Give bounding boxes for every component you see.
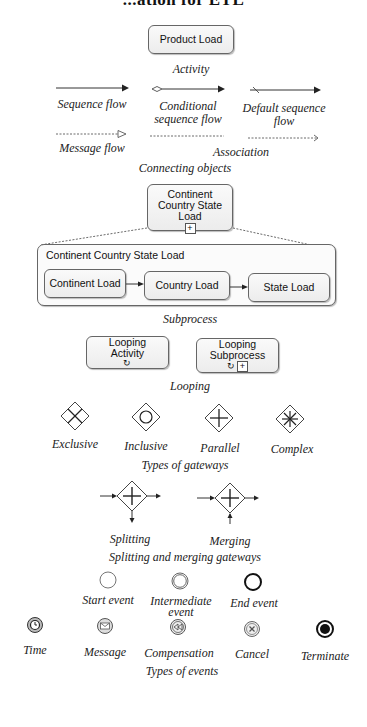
- event-label-time: Time: [15, 644, 55, 657]
- connecting-objects-caption: Connecting objects: [130, 162, 240, 175]
- complex-gateway-icon: [276, 405, 304, 433]
- loop-icon: ↻: [123, 359, 131, 368]
- intermediate-event-icon: [172, 573, 188, 589]
- looping-caption: Looping: [150, 380, 230, 393]
- conditional-sequence-flow-label: Conditional sequence flow: [148, 100, 228, 126]
- event-label-cancel: Cancel: [230, 648, 274, 661]
- page-title: ...ation for ETL: [0, 0, 367, 10]
- event-label-terminate: Terminate: [295, 650, 355, 663]
- splitting-gateway-icon: [100, 481, 161, 523]
- event-type-icons: [0, 616, 367, 646]
- compensation-event-icon: [171, 620, 186, 635]
- activity-label: Product Load: [160, 34, 222, 45]
- loop-icon: ↻: [227, 362, 235, 371]
- inclusive-gateway-icon: [132, 403, 160, 431]
- gateway-label-parallel: Parallel: [190, 442, 250, 455]
- parallel-gateway-icon: [205, 404, 233, 432]
- gateway-label-inclusive: Inclusive: [116, 440, 176, 453]
- merging-gateway-icon: [197, 483, 259, 524]
- split-merge-gateways: [0, 478, 367, 538]
- end-event-label: End event: [224, 597, 284, 610]
- default-sequence-flow-label: Default sequence flow: [240, 102, 328, 128]
- gateway-label-exclusive: Exclusive: [45, 438, 105, 451]
- gateway-icons: [0, 398, 367, 438]
- start-event-label: Start event: [75, 594, 141, 607]
- time-event-icon: [28, 618, 43, 633]
- terminate-event-icon: [317, 621, 333, 637]
- activity-product-load[interactable]: Product Load: [148, 25, 234, 54]
- gateway-label-complex: Complex: [262, 443, 322, 456]
- cancel-event-icon: [245, 622, 260, 637]
- exclusive-gateway-icon: [61, 402, 89, 430]
- subprocess-flow-arrows: [0, 276, 367, 296]
- expanded-subprocess-title: Continent Country State Load: [46, 249, 184, 261]
- split-merge-caption: Splitting and merging gateways: [100, 551, 270, 564]
- association-label: Association: [206, 146, 276, 159]
- event-types-caption: Types of events: [132, 665, 232, 678]
- gateways-caption: Types of gateways: [130, 459, 240, 472]
- activity-caption: Activity: [150, 63, 232, 76]
- end-event-icon: [245, 574, 261, 590]
- start-event-icon: [100, 572, 116, 588]
- splitting-label: Splitting: [100, 533, 160, 546]
- message-flow-label: Message flow: [52, 142, 132, 155]
- subprocess-caption: Subprocess: [150, 313, 230, 326]
- event-label-compensation: Compensation: [142, 647, 216, 660]
- message-event-icon: [98, 619, 113, 634]
- merging-label: Merging: [200, 535, 260, 548]
- expand-marker-icon[interactable]: +: [237, 361, 248, 372]
- sequence-flow-label: Sequence flow: [50, 98, 134, 111]
- event-label-message: Message: [80, 646, 130, 659]
- looping-subprocess[interactable]: Looping Subprocess ↻ +: [196, 338, 279, 373]
- looping-activity[interactable]: Looping Activity ↻: [86, 336, 169, 369]
- intermediate-event-label: Intermediate event: [146, 596, 216, 618]
